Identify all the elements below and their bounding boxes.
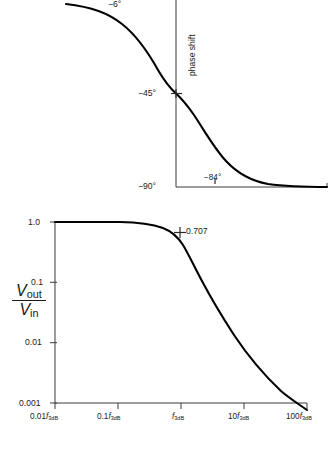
magnitude-y-axis-label: Vout Vin xyxy=(12,283,46,320)
magnitude-xtick-0: 0.01f3dB xyxy=(30,413,58,422)
phase-label-minus84: −84° xyxy=(204,174,221,182)
bode-plot-figure: −6° −45° −90° −84° phase shift xyxy=(0,0,333,455)
phase-axis-label: phase shift xyxy=(187,34,197,76)
xtick-4-sub: 3dB xyxy=(302,415,312,421)
y-num-v: V xyxy=(16,282,27,299)
magnitude-curve xyxy=(55,222,307,410)
magnitude-xtick-3: 10f3dB xyxy=(228,413,249,422)
xtick-1-sub: 3dB xyxy=(111,415,121,421)
magnitude-x-ticks xyxy=(55,403,307,409)
magnitude-chart: 1.0 0.1 0.01 0.001 Vout Vin 0.707 0.01f3… xyxy=(0,205,333,455)
xtick-3-coef: 10 xyxy=(228,412,237,421)
magnitude-y-ticks xyxy=(50,222,57,403)
xtick-4-coef: 100 xyxy=(286,412,300,421)
phase-label-minus90: −90° xyxy=(138,182,156,191)
xtick-0-coef: 0.01 xyxy=(30,412,46,421)
phase-shift-chart: −6° −45° −90° −84° phase shift xyxy=(0,0,333,196)
phase-axes xyxy=(176,0,327,187)
y-den-v: V xyxy=(19,301,30,318)
magnitude-axes xyxy=(55,222,307,403)
phase-chart-svg xyxy=(0,0,333,196)
y-num-sub: out xyxy=(27,288,42,300)
phase-label-minus6: −6° xyxy=(108,0,121,9)
magnitude-0707-label: 0.707 xyxy=(186,227,208,236)
y-axis-numerator: Vout xyxy=(12,283,46,301)
magnitude-ytick-1: 1.0 xyxy=(28,218,40,227)
xtick-2-sub: 3dB xyxy=(174,415,184,421)
xtick-3-sub: 3dB xyxy=(239,415,249,421)
magnitude-xtick-4: 100f3dB xyxy=(286,413,312,422)
xtick-1-coef: 0.1 xyxy=(97,412,108,421)
magnitude-xtick-2: f3dB xyxy=(172,413,184,422)
phase-label-minus45: −45° xyxy=(138,89,156,98)
magnitude-ytick-4: 0.001 xyxy=(19,399,41,408)
magnitude-ytick-3: 0.01 xyxy=(25,338,42,347)
xtick-0-sub: 3dB xyxy=(48,415,58,421)
phase-curve xyxy=(66,4,327,187)
magnitude-xtick-1: 0.1f3dB xyxy=(97,413,121,422)
y-axis-denominator: Vin xyxy=(12,301,46,319)
y-den-sub: in xyxy=(30,307,38,319)
